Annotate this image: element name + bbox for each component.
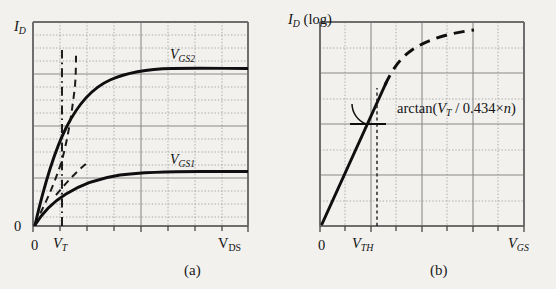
figure-svg <box>0 0 556 289</box>
panel-a-y-origin-label: 0 <box>14 219 21 234</box>
panel-a-curve-label-vgs2: VGS2 <box>170 48 195 64</box>
panel-b-x-origin-label: 0 <box>318 238 325 253</box>
curve-above-threshold <box>385 30 474 85</box>
curve-subthreshold-linear <box>322 83 386 224</box>
panel-b-caption: (b) <box>430 262 448 279</box>
panel-a-vt-tick-label: VT <box>53 236 67 253</box>
panel-a-y-axis-label: ID <box>14 19 26 36</box>
panel-b-y-axis-label: ID (log) <box>288 12 332 29</box>
panel-a-x-axis-label: VDS <box>218 236 241 253</box>
panel-b-vth-tick-label: VTH <box>352 236 373 253</box>
panel-b-grid <box>320 22 524 232</box>
panel-b-slope-annotation: arctan(VT / 0.434×n) <box>397 101 516 118</box>
panel-a-x-origin-label: 0 <box>31 238 38 253</box>
angle-arc-icon <box>352 104 366 124</box>
panel-a-caption: (a) <box>184 262 201 279</box>
panel-a-curve-label-vgs1: VGS1 <box>170 153 195 169</box>
panel-b-x-axis-label: VGS <box>508 236 529 253</box>
figure-container: ID 0 0 VT VDS VGS2 VGS1 ID (log) 0 VTH V… <box>0 0 556 289</box>
